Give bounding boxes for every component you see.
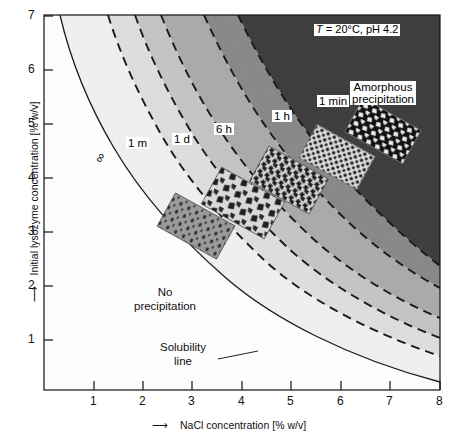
no-precip-line2: precipitation [110, 300, 220, 314]
x-tick-7: 7 [386, 394, 393, 408]
x-tick-4: 4 [238, 394, 245, 408]
curve-label-1h: 1 h [272, 110, 292, 122]
solubility-line1: Solubility [140, 341, 226, 355]
y-axis-arrow: ⟶ [28, 286, 40, 302]
x-axis-arrow: ⟶ [152, 419, 168, 431]
region-label-no-precipitation: No precipitation [110, 286, 220, 314]
condition-note-text: = 20°C, pH 4.2 [323, 23, 399, 35]
no-precip-line1: No [110, 286, 220, 300]
amorphous-line1: Amorphous [352, 81, 414, 93]
phase-diagram-svg [0, 0, 470, 442]
curve-label-1m: 1 m [126, 137, 149, 149]
x-axis-title: NaCl concentration [% w/v] [180, 419, 306, 431]
condition-note-symbol: T [316, 23, 323, 35]
curve-label-6h: 6 h [214, 123, 234, 135]
x-tick-2: 2 [139, 394, 146, 408]
y-tick-1: 1 [28, 332, 35, 346]
solubility-line2: line [140, 355, 226, 369]
solubility-line-label: Solubility line [140, 341, 226, 369]
y-axis-title: Initial lysozyme concentration [% w/v] [28, 102, 40, 284]
y-tick-7: 7 [28, 8, 35, 22]
curve-label-1d: 1 d [172, 133, 192, 145]
condition-note: T = 20°C, pH 4.2 [314, 24, 400, 36]
x-tick-8: 8 [436, 394, 443, 408]
x-tick-5: 5 [287, 394, 294, 408]
x-tick-1: 1 [90, 394, 97, 408]
x-tick-3: 3 [188, 394, 195, 408]
x-tick-6: 6 [337, 394, 344, 408]
region-label-amorphous: Amorphous precipitation [350, 81, 416, 105]
phase-diagram-figure: 7 6 5 4 3 2 1 1 2 3 4 5 6 7 8 ⟶ NaCl con… [0, 0, 470, 442]
curve-label-1min: 1 min [317, 95, 349, 107]
amorphous-line2: precipitation [352, 93, 414, 105]
y-axis-title-group: ⟶ Initial lysozyme concentration [% w/v] [28, 72, 40, 332]
